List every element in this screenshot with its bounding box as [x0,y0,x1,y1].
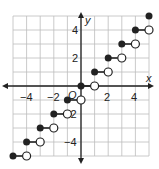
open-point [131,40,139,48]
open-point [50,124,58,132]
open-point [104,68,112,76]
closed-point [78,83,85,90]
closed-point [146,13,153,20]
y-tick-label: 2 [72,52,78,64]
open-point [63,110,71,118]
y-axis-down-arrow-icon [78,158,84,164]
closed-point [64,97,71,104]
x-tick-label: −4 [20,91,33,103]
closed-point [91,69,98,76]
y-tick-label: 4 [72,24,78,36]
y-axis-up-arrow-icon [78,12,84,18]
x-axis-label: x [145,72,152,84]
y-tick-label: −4 [64,136,77,148]
x-axis-left-arrow-icon [2,83,8,89]
open-point [91,82,99,90]
open-point [77,96,85,104]
x-tick-label: 4 [131,91,137,103]
closed-point [118,41,125,48]
closed-point [10,153,17,160]
closed-point [132,27,139,34]
closed-point [37,125,44,132]
open-point [23,152,31,160]
closed-point [23,139,30,146]
step-function-graph: x y O −4 −2 2 4 4 2 −2 −4 [0,0,159,169]
open-point [36,138,44,146]
x-tick-label: 2 [104,91,110,103]
open-point [145,26,153,34]
x-tick-label: −2 [47,91,60,103]
closed-point [105,55,112,62]
closed-point [50,111,57,118]
open-point [118,54,126,62]
